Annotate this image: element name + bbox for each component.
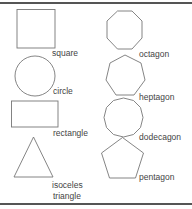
dodecagon-shape <box>104 98 143 137</box>
pentagon-label: pentagon <box>139 172 174 182</box>
triangle-label-line1: isoceles <box>52 180 83 190</box>
octagon-shape <box>107 11 142 49</box>
isoceles-triangle-shape <box>14 137 53 177</box>
dodecagon-label: dodecagon <box>139 132 181 142</box>
circle-label: circle <box>53 86 73 96</box>
circle-shape <box>15 56 55 96</box>
pentagon-shape <box>102 138 144 179</box>
rectangle-label: rectangle <box>53 128 88 138</box>
square-label: square <box>52 48 78 58</box>
octagon-label: octagon <box>139 49 169 59</box>
rectangle-shape <box>12 101 59 127</box>
triangle-label-line2: triangle <box>53 191 81 201</box>
heptagon-label: heptagon <box>139 92 174 102</box>
bottom-rule <box>0 203 192 205</box>
square-shape <box>17 10 55 49</box>
heptagon-shape <box>106 55 145 95</box>
